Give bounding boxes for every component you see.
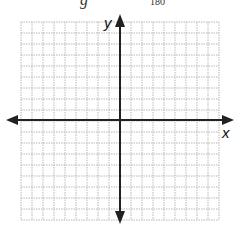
y-axis-label: y [104,14,112,31]
coordinate-grid [0,0,242,231]
y-axis-down-arrow-icon [115,211,125,224]
y-axis-up-arrow-icon [115,14,125,27]
x-axis-label: x [222,124,230,141]
x-axis-left-arrow-icon [6,115,18,125]
